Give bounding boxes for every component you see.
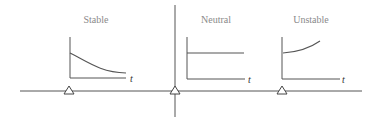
fulcrum-triangle xyxy=(277,86,287,94)
t-label: t xyxy=(342,74,345,85)
t-label: t xyxy=(248,74,251,85)
t-label: t xyxy=(130,73,133,84)
growth-curve xyxy=(283,41,320,53)
panel-title-stable: Stable xyxy=(84,14,110,25)
fulcrum-triangle xyxy=(64,86,74,94)
panel-stable: Stable t xyxy=(64,14,133,94)
panel-title-neutral: Neutral xyxy=(201,14,231,25)
panel-neutral: Neutral t xyxy=(170,14,251,94)
stability-diagram: Stable t Neutral t Unstable t xyxy=(0,0,381,125)
panel-unstable: Unstable t xyxy=(277,14,345,94)
panel-title-unstable: Unstable xyxy=(293,14,329,25)
fulcrum-triangle xyxy=(170,86,180,94)
decay-curve xyxy=(70,53,126,73)
